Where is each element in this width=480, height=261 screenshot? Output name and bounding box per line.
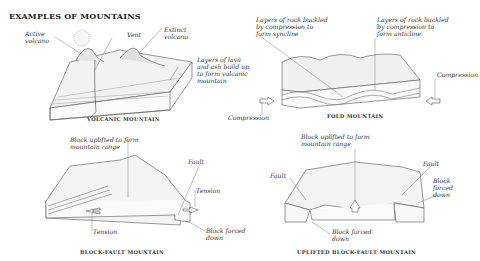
caption-block-fault-mountain: BLOCK-FAULT MOUNTAIN bbox=[80, 249, 164, 255]
label-fault-right: Fault bbox=[423, 160, 439, 167]
block-fault-mountain-illustration bbox=[46, 137, 205, 231]
label-block-forced-down: Block forced down bbox=[206, 227, 246, 241]
caption-volcanic-mountain: VOLCANIC MOUNTAIN bbox=[87, 116, 160, 122]
label-lava-layers: Layers of lava and ash build up to form … bbox=[197, 56, 249, 84]
label-tension-right: Tension bbox=[196, 187, 220, 194]
label-extinct-volcano: Extinct volcano bbox=[164, 26, 188, 40]
label-vent: Vent bbox=[127, 31, 141, 38]
label-active-volcano: Active volcano bbox=[25, 30, 49, 44]
label-fault: Fault bbox=[188, 158, 204, 165]
label-block-uplifted: Block uplifted to form mountain range bbox=[70, 136, 139, 150]
label-compression-right: Compression bbox=[437, 71, 478, 78]
label-compression-left: Compression bbox=[228, 114, 269, 121]
label-fault-left: Fault bbox=[270, 172, 286, 179]
fold-mountain-illustration bbox=[260, 36, 440, 115]
uplifted-block-fault-mountain-illustration bbox=[285, 149, 437, 234]
caption-fold-mountain: FOLD MOUNTAIN bbox=[327, 113, 383, 119]
label-syncline: Layers of rock buckled by compression to… bbox=[256, 16, 328, 37]
label-block-uplifted-2: Block uplifted to form mountain range bbox=[301, 133, 370, 147]
label-anticline: Layers of rock buckled by compression to… bbox=[377, 16, 449, 37]
label-block-forced-down-bottom: Block forced down bbox=[332, 228, 372, 242]
caption-uplifted-block-fault-mountain: UPLIFTED BLOCK-FAULT MOUNTAIN bbox=[297, 249, 416, 255]
mountain-diagrams bbox=[0, 0, 480, 261]
volcanic-mountain-illustration bbox=[50, 28, 192, 120]
label-block-forced-down-right: Block forced down bbox=[433, 177, 453, 198]
label-tension-left: Tension bbox=[93, 228, 117, 235]
